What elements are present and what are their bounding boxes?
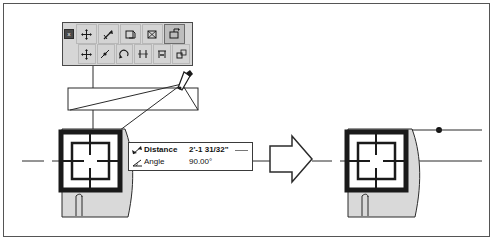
snap-active-button[interactable]: [164, 24, 185, 44]
snap-parallel-button[interactable]: [134, 44, 152, 64]
move-cross-icon: [80, 28, 93, 41]
dimension-datatip[interactable]: Distance 2'-1 31/32" Angle 90.00°: [128, 142, 253, 171]
transform-arrow: [270, 136, 312, 182]
snap-pan-button[interactable]: [78, 44, 96, 64]
active-rect-icon: [168, 28, 181, 41]
datatip-label-distance: Distance: [144, 144, 189, 156]
snap-rotate-button[interactable]: [116, 44, 134, 64]
datatip-value-distance: 2'-1 31/32": [189, 144, 229, 156]
snap-insert-button[interactable]: [142, 24, 163, 44]
snap-move-button[interactable]: [76, 24, 97, 44]
toolbar-row-1: x: [64, 24, 191, 44]
left-white-band: [68, 88, 198, 110]
pen-cursor: [178, 70, 193, 90]
snap-offset-button[interactable]: [172, 44, 190, 64]
dimension-icon: [156, 48, 169, 61]
distance-icon: [131, 146, 144, 155]
datatip-value-angle: 90.00°: [189, 156, 212, 168]
toolbar-close-button[interactable]: x: [64, 29, 74, 39]
endpoint-arrow-icon: [102, 28, 115, 41]
rotate-arrow-icon: [118, 48, 131, 61]
close-icon: x: [68, 31, 71, 37]
offset-icon: [175, 48, 188, 61]
snap-overrides-toolbar[interactable]: x: [62, 22, 193, 66]
datatip-underline: [235, 150, 249, 151]
midpoint-icon: [99, 48, 112, 61]
toolbar-row-2: [64, 44, 191, 64]
insert-rect-icon: [146, 28, 159, 41]
angle-icon: [131, 158, 144, 167]
four-arrow-icon: [80, 48, 93, 61]
snap-dimension-button[interactable]: [153, 44, 171, 64]
copy-rect-icon: [124, 28, 137, 41]
datatip-row-angle: Angle 90.00°: [131, 156, 250, 168]
screenshot-root: x: [0, 0, 493, 240]
snap-endpoint-button[interactable]: [98, 24, 119, 44]
parallel-lines-icon: [137, 48, 150, 61]
datatip-label-angle: Angle: [144, 156, 189, 168]
datatip-row-distance: Distance 2'-1 31/32": [131, 144, 250, 156]
snap-midpoint-button[interactable]: [97, 44, 115, 64]
snap-copy-button[interactable]: [120, 24, 141, 44]
